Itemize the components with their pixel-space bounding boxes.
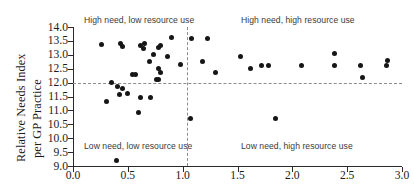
y-axis-tick-labels: 14.013.513.012.512.011.511.010.510.09.59… — [38, 0, 68, 184]
data-point — [133, 72, 138, 77]
data-point — [148, 95, 153, 100]
data-point — [136, 110, 141, 115]
data-point — [120, 44, 125, 49]
data-point — [147, 59, 152, 64]
data-point — [273, 116, 278, 121]
annotation-low-need-low-resource: Low need, low resource use — [84, 141, 192, 151]
data-point — [178, 62, 183, 67]
data-point — [189, 36, 194, 41]
y-tick-label: 10.0 — [38, 133, 68, 145]
horizontal-reference-line — [73, 83, 402, 84]
y-axis-line — [73, 27, 74, 166]
y-tick-label: 12.0 — [38, 77, 68, 89]
x-axis-tick-labels: 0.00.51.01.52.02.53.0 — [0, 170, 414, 184]
data-point — [299, 63, 304, 68]
y-tick-mark — [68, 124, 73, 125]
data-point — [259, 63, 264, 68]
y-axis-title-line-1: Relative Needs Index — [14, 53, 29, 162]
data-point — [332, 51, 337, 56]
y-tick-mark — [68, 27, 73, 28]
data-point — [151, 52, 156, 57]
x-tick-label: 0.0 — [66, 170, 81, 182]
data-point — [109, 80, 114, 85]
data-point — [238, 54, 243, 59]
data-point — [332, 63, 337, 68]
data-point — [205, 36, 210, 41]
y-tick-label: 12.5 — [38, 63, 68, 75]
y-tick-label: 13.0 — [38, 49, 68, 61]
y-tick-mark — [68, 138, 73, 139]
data-point — [213, 70, 218, 75]
data-point — [169, 35, 174, 40]
y-tick-mark — [68, 97, 73, 98]
data-point — [117, 92, 122, 97]
y-tick-label: 11.5 — [38, 91, 68, 103]
y-tick-label: 14.0 — [38, 22, 68, 34]
data-point — [142, 41, 147, 46]
y-tick-label: 9.5 — [38, 147, 68, 159]
y-tick-mark — [68, 55, 73, 56]
x-tick-label: 3.0 — [395, 170, 410, 182]
data-point — [360, 75, 365, 80]
data-point — [358, 63, 363, 68]
data-point — [138, 95, 143, 100]
data-point — [120, 86, 125, 91]
y-tick-label: 10.5 — [38, 119, 68, 131]
x-tick-label: 1.5 — [230, 170, 245, 182]
data-point — [266, 63, 271, 68]
data-point — [158, 70, 163, 75]
data-point — [125, 91, 130, 96]
y-tick-mark — [68, 110, 73, 111]
data-point — [158, 43, 163, 48]
data-point — [99, 42, 104, 47]
x-tick-label: 1.0 — [175, 170, 190, 182]
annotation-low-need-high-resource: Low need, high resource use — [241, 141, 353, 151]
annotation-high-need-high-resource: High need, high resource use — [241, 15, 355, 25]
y-tick-mark — [68, 152, 73, 153]
data-point — [114, 158, 119, 163]
y-tick-label: 11.0 — [38, 105, 68, 117]
data-point — [188, 116, 193, 121]
data-point — [384, 63, 389, 68]
scatter-chart-figure: Relative Needs Index per GP Practice 14.… — [0, 0, 414, 184]
data-point — [248, 66, 253, 71]
data-point — [141, 46, 146, 51]
x-tick-label: 2.0 — [285, 170, 300, 182]
x-tick-label: 2.5 — [340, 170, 355, 182]
x-tick-label: 0.5 — [121, 170, 136, 182]
data-point — [165, 54, 170, 59]
data-point — [200, 59, 205, 64]
annotation-high-need-low-resource: High need, low resource use — [84, 15, 194, 25]
data-point — [156, 77, 161, 82]
y-tick-mark — [68, 41, 73, 42]
y-tick-label: 13.5 — [38, 35, 68, 47]
data-point — [104, 99, 109, 104]
y-tick-mark — [68, 69, 73, 70]
